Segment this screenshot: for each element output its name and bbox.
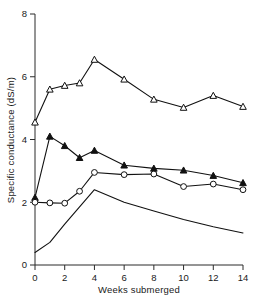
y-axis-title: Specific conductance (dS/m) <box>5 77 16 203</box>
chart-background <box>0 0 256 304</box>
x-axis-title: Weeks submerged <box>98 284 180 295</box>
x-tick-label: 14 <box>238 272 249 283</box>
x-tick-label: 0 <box>32 272 37 283</box>
y-tick-label: 0 <box>22 259 27 270</box>
series-open-circle-marker <box>121 172 127 178</box>
y-tick-label: 8 <box>22 8 27 19</box>
series-open-circle-marker <box>181 184 187 190</box>
series-open-circle-marker <box>62 200 68 206</box>
line-chart: 02468 02468101214 Weeks submerged Specif… <box>0 0 256 304</box>
series-open-circle-marker <box>47 200 53 206</box>
x-tick-label: 8 <box>151 272 156 283</box>
y-tick-label: 6 <box>22 71 27 82</box>
series-open-circle-marker <box>77 188 83 194</box>
series-open-circle-marker <box>32 199 38 205</box>
series-open-circle-marker <box>92 170 98 176</box>
x-tick-label: 4 <box>92 272 97 283</box>
chart-figure: 02468 02468101214 Weeks submerged Specif… <box>0 0 256 304</box>
series-open-circle-marker <box>210 181 216 187</box>
x-tick-label: 12 <box>208 272 219 283</box>
y-tick-label: 4 <box>22 134 27 145</box>
y-tick-label: 2 <box>22 197 27 208</box>
series-open-circle-marker <box>151 171 157 177</box>
x-tick-label: 2 <box>62 272 67 283</box>
series-open-circle-marker <box>240 187 246 193</box>
x-tick-label: 6 <box>121 272 126 283</box>
x-tick-label: 10 <box>178 272 189 283</box>
